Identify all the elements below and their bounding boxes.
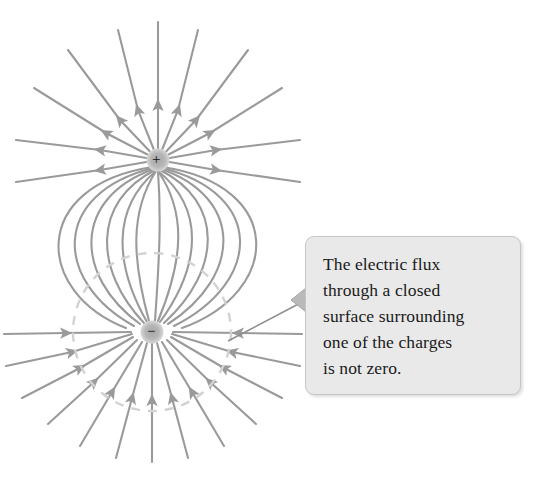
callout-box: The electric flux through a closed surfa… bbox=[305, 236, 521, 395]
callout-line-1: The electric flux bbox=[323, 251, 508, 277]
negative-charge-symbol: − bbox=[147, 324, 155, 339]
callout-line-5: is not zero. bbox=[323, 355, 508, 381]
callout-line-3: surface surrounding bbox=[323, 303, 508, 329]
positive-charge-symbol: + bbox=[152, 152, 160, 167]
callout-line-2: through a closed bbox=[323, 277, 508, 303]
figure-canvas: + − The electric flux through a closed s… bbox=[0, 0, 539, 484]
callout-pointer-triangle bbox=[291, 288, 306, 312]
callout-line-4: one of the charges bbox=[323, 329, 508, 355]
inward-lines-negative-charge bbox=[4, 332, 302, 462]
